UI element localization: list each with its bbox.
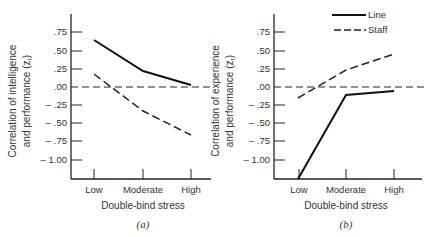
legend-line-label: Line: [368, 9, 386, 20]
y-axis-label-b-line1: Correlation of experience: [210, 45, 221, 157]
x-tick-high-b: High: [384, 184, 404, 195]
legend-staff-label: Staff: [368, 24, 388, 35]
y-ticks-a: [71, 32, 82, 160]
y-axis-label-b-line2: and performance (zr): [224, 55, 236, 147]
y-axis-label-a-line1: Correlation of intelligence: [7, 44, 18, 157]
svg-text:.25: .25: [54, 63, 67, 74]
svg-text:– .50: – .50: [249, 117, 270, 128]
svg-text:– .75: – .75: [46, 135, 67, 146]
svg-text:– .50: – .50: [46, 117, 67, 128]
svg-text:.25: .25: [257, 63, 270, 74]
x-tick-low-a: Low: [85, 184, 103, 195]
svg-text:.75: .75: [257, 26, 270, 37]
svg-text:.75: .75: [54, 26, 67, 37]
svg-text:– .75: – .75: [249, 135, 270, 146]
y-ticks-b: [274, 32, 285, 160]
svg-text:– 1.00: – 1.00: [41, 154, 67, 165]
series-line-a: [94, 40, 191, 85]
x-tick-high-a: High: [181, 184, 201, 195]
svg-text:– 1.00: – 1.00: [244, 154, 270, 165]
x-ticks-b: [299, 169, 394, 179]
svg-text:.50: .50: [257, 45, 270, 56]
legend: Line Staff: [332, 9, 388, 35]
y-tick-labels-a: .75 .50 .25 .00 – .25 – .50 – .75 – 1.00: [41, 26, 67, 165]
series-staff-a: [94, 74, 191, 135]
figure: Correlation of intelligence and performa…: [0, 0, 437, 237]
svg-text:– .25: – .25: [249, 99, 270, 110]
x-axis-label-b: Double-bind stress: [304, 200, 387, 211]
x-axis-label-a: Double-bind stress: [101, 200, 184, 211]
svg-text:– .25: – .25: [46, 99, 67, 110]
y-axis-label-a-line2: and performance (zr): [21, 55, 33, 147]
panel-caption-a: (a): [137, 218, 150, 231]
panel-a: Correlation of intelligence and performa…: [7, 14, 211, 231]
x-tick-moderate-a: Moderate: [123, 184, 163, 195]
x-tick-moderate-b: Moderate: [326, 184, 366, 195]
svg-text:.50: .50: [54, 45, 67, 56]
x-ticks-a: [94, 169, 191, 179]
svg-text:.00: .00: [257, 81, 270, 92]
x-tick-low-b: Low: [290, 184, 308, 195]
svg-text:.00: .00: [54, 81, 67, 92]
y-tick-labels-b: .75 .50 .25 .00 – .25 – .50 – .75 – 1.00: [244, 26, 270, 165]
panel-b: Correlation of experience and performanc…: [210, 9, 427, 231]
panel-caption-b: (b): [340, 218, 353, 231]
series-line-b: [298, 91, 394, 179]
